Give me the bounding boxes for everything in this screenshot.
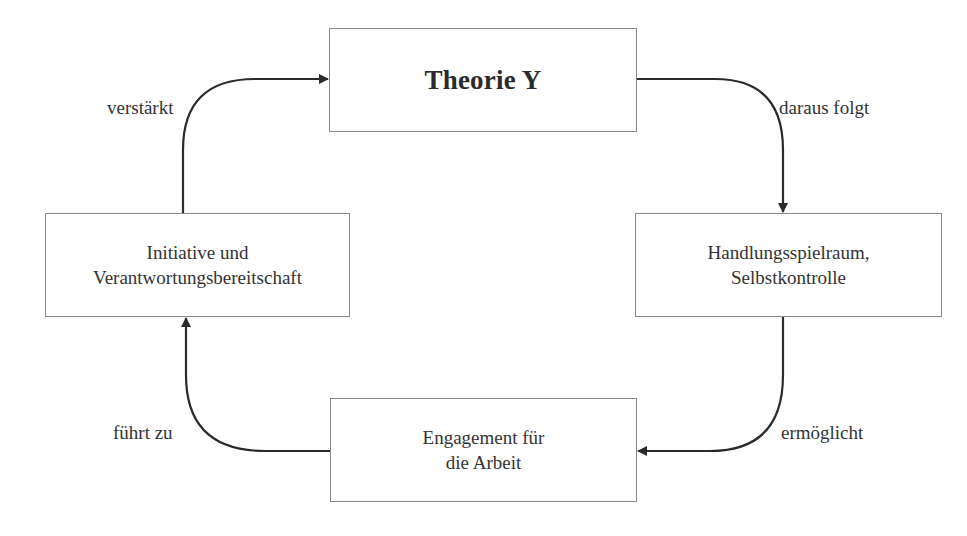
edge-label-verstaerkt: verstärkt bbox=[107, 97, 173, 119]
arrow-initiative-to-theorie bbox=[183, 79, 328, 213]
node-handlungsspielraum-line1: Handlungsspielraum, bbox=[707, 240, 869, 265]
node-handlungsspielraum-line2: Selbstkontrolle bbox=[731, 265, 846, 290]
edge-label-ermoeglicht: ermöglicht bbox=[781, 422, 863, 444]
arrow-theorie-to-handlung bbox=[637, 79, 783, 212]
node-engagement-line2: die Arbeit bbox=[446, 450, 521, 475]
node-theorie-y-label: Theorie Y bbox=[424, 68, 541, 93]
node-initiative-line1: Initiative und bbox=[147, 240, 249, 265]
edge-label-daraus-folgt: daraus folgt bbox=[779, 97, 869, 119]
arrow-handlung-to-engagement bbox=[638, 317, 783, 451]
node-theorie-y: Theorie Y bbox=[329, 28, 637, 132]
node-initiative-line2: Verantwortungsbereitschaft bbox=[93, 265, 302, 290]
edge-label-fuehrt-zu: führt zu bbox=[113, 422, 173, 444]
node-handlungsspielraum: Handlungsspielraum, Selbstkontrolle bbox=[635, 213, 942, 317]
arrow-engagement-to-initiative bbox=[186, 318, 330, 451]
node-initiative: Initiative und Verantwortungsbereitschaf… bbox=[45, 213, 350, 317]
node-engagement-line1: Engagement für bbox=[423, 425, 545, 450]
node-engagement: Engagement für die Arbeit bbox=[330, 398, 637, 502]
